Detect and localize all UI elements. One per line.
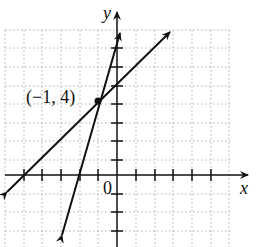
origin-label: 0	[103, 178, 112, 199]
x-axis-label: x	[240, 178, 248, 199]
steep-line	[62, 33, 120, 235]
y-axis-label: y	[103, 3, 111, 24]
graph	[0, 0, 258, 247]
intersection-point	[95, 98, 102, 105]
point-label: (−1, 4)	[26, 87, 75, 108]
shallow-line	[7, 32, 170, 192]
lines	[7, 32, 170, 235]
